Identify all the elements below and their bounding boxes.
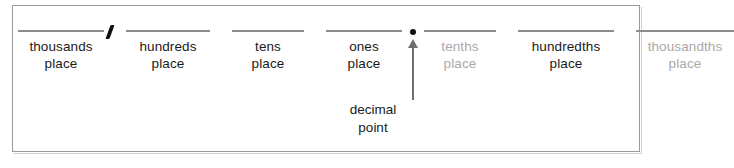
place-label-ones: ones place <box>348 38 381 72</box>
blank-line-tens[interactable] <box>232 30 304 32</box>
place-label-tens: tens place <box>252 38 285 72</box>
decimal-point-icon <box>410 29 416 35</box>
place-word-hundredths: hundredths <box>532 38 601 55</box>
place-suffix-hundreds: place <box>139 55 196 72</box>
place-column-hundreds: hundreds place <box>126 30 210 72</box>
decimal-caption-line1: decimal <box>318 101 428 119</box>
place-column-ones: ones place <box>326 30 402 72</box>
place-word-tens: tens <box>252 38 285 55</box>
separator-gap-3 <box>496 30 518 90</box>
place-word-thousandths: thousandths <box>648 38 723 55</box>
blank-line-ones[interactable] <box>326 30 402 32</box>
separator-gap-2 <box>304 30 326 90</box>
place-suffix-tenths: place <box>441 55 478 72</box>
decimal-point-caption: decimal point <box>318 101 428 137</box>
place-suffix-ones: place <box>348 55 381 72</box>
place-label-hundreds: hundreds place <box>139 38 196 72</box>
blank-line-thousandths[interactable] <box>636 30 734 32</box>
place-word-tenths: tenths <box>441 38 478 55</box>
place-column-tenths: tenths place <box>424 30 496 72</box>
place-label-thousands: thousands place <box>29 38 92 72</box>
separator-decimal-point <box>402 30 424 90</box>
place-suffix-tens: place <box>252 55 285 72</box>
separator-thousands-comma <box>104 30 126 90</box>
place-word-thousands: thousands <box>29 38 92 55</box>
arrow-shaft <box>412 45 414 100</box>
blank-line-hundreds[interactable] <box>126 30 210 32</box>
blank-line-hundredths[interactable] <box>518 30 614 32</box>
decimal-caption-line2: point <box>318 119 428 137</box>
blank-line-thousands[interactable] <box>18 30 104 32</box>
separator-gap-1 <box>210 30 232 90</box>
place-column-thousands: thousands place <box>18 30 104 72</box>
place-value-row: thousands place hundreds place tens plac… <box>18 30 634 90</box>
place-word-hundreds: hundreds <box>139 38 196 55</box>
place-label-hundredths: hundredths place <box>532 38 601 72</box>
place-column-hundredths: hundredths place <box>518 30 614 72</box>
place-label-thousandths: thousandths place <box>648 38 723 72</box>
separator-gap-4 <box>614 30 636 90</box>
place-suffix-hundredths: place <box>532 55 601 72</box>
place-column-thousandths: thousandths place <box>636 30 734 72</box>
place-suffix-thousands: place <box>29 55 92 72</box>
blank-line-tenths[interactable] <box>424 30 496 32</box>
place-column-tens: tens place <box>232 30 304 72</box>
place-suffix-thousandths: place <box>648 55 723 72</box>
place-word-ones: ones <box>348 38 381 55</box>
place-label-tenths: tenths place <box>441 38 478 72</box>
